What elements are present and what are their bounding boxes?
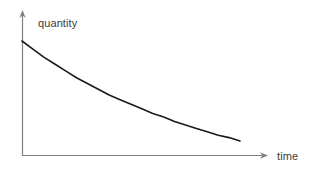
chart-figure: quantity time [0,0,316,172]
y-axis-label: quantity [38,17,77,29]
x-axis-label: time [277,150,298,162]
decay-curve [22,41,240,141]
